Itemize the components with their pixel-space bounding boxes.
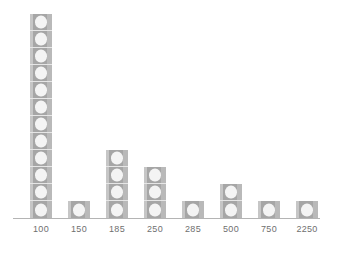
ball-icon [35, 152, 47, 165]
ball-icon [35, 135, 47, 148]
ball-icon [35, 203, 47, 216]
bar-column [144, 167, 166, 218]
bar-column [30, 14, 52, 218]
ball-icon [301, 203, 313, 216]
bars-container [0, 0, 340, 218]
bar-unit-tile [30, 133, 52, 150]
bar-column [220, 184, 242, 218]
bar-unit-tile [30, 167, 52, 184]
bar-unit-tile [220, 184, 242, 201]
bar-unit-tile [30, 201, 52, 218]
bar-unit-tile [30, 150, 52, 167]
ball-icon [35, 118, 47, 131]
bar-unit-tile [296, 201, 318, 218]
ball-icon [225, 186, 237, 199]
ball-icon [35, 169, 47, 182]
bar-unit-tile [30, 116, 52, 133]
bar-unit-tile [30, 48, 52, 65]
bar-unit-tile [144, 201, 166, 218]
ball-icon [149, 186, 161, 199]
bar-column [296, 201, 318, 218]
bar-unit-tile [106, 184, 128, 201]
plot-area: 1001501852502855007502250 [0, 0, 340, 258]
bar-unit-tile [30, 82, 52, 99]
ball-icon [149, 203, 161, 216]
ball-icon [35, 16, 47, 29]
bar-column [106, 150, 128, 218]
ball-icon [263, 203, 275, 216]
ball-icon [187, 203, 199, 216]
bar-unit-tile [220, 201, 242, 218]
pictogram-bar-chart: 1001501852502855007502250 [0, 0, 340, 258]
ball-icon [35, 101, 47, 114]
bar-unit-tile [30, 99, 52, 116]
bar-unit-tile [182, 201, 204, 218]
bar-unit-tile [68, 201, 90, 218]
ball-icon [111, 186, 123, 199]
bar-unit-tile [30, 31, 52, 48]
bar-unit-tile [30, 184, 52, 201]
ball-icon [111, 152, 123, 165]
bar-unit-tile [144, 167, 166, 184]
bar-unit-tile [258, 201, 280, 218]
bar-unit-tile [106, 201, 128, 218]
bar-unit-tile [30, 14, 52, 31]
bar-unit-tile [30, 65, 52, 82]
bar-unit-tile [106, 150, 128, 167]
ball-icon [35, 67, 47, 80]
bar-unit-tile [144, 184, 166, 201]
bar-column [258, 201, 280, 218]
ball-icon [73, 203, 85, 216]
ball-icon [35, 50, 47, 63]
ball-icon [35, 186, 47, 199]
ball-icon [225, 203, 237, 216]
bar-column [68, 201, 90, 218]
ball-icon [149, 169, 161, 182]
ball-icon [111, 169, 123, 182]
x-axis-tick-labels: 1001501852502855007502250 [0, 218, 340, 246]
ball-icon [35, 33, 47, 46]
ball-icon [35, 84, 47, 97]
x-tick-label: 2250 [285, 224, 329, 234]
bar-unit-tile [106, 167, 128, 184]
bar-column [182, 201, 204, 218]
ball-icon [111, 203, 123, 216]
